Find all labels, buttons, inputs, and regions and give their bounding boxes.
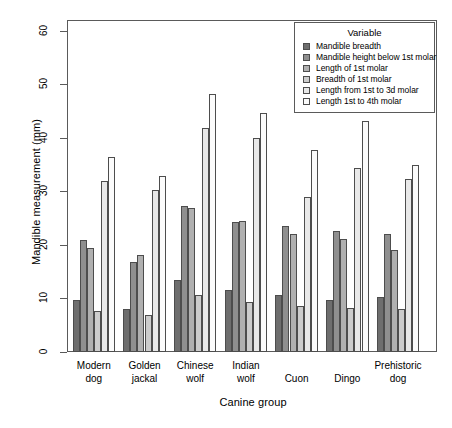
bar <box>188 208 195 352</box>
bar <box>123 309 130 352</box>
legend-entry: Length of 1st molar <box>299 63 430 74</box>
bar <box>209 94 216 352</box>
bar <box>340 239 347 352</box>
bar <box>130 262 137 352</box>
bar <box>326 300 333 352</box>
bar <box>239 221 246 352</box>
legend-swatch-icon <box>303 54 310 61</box>
legend-entry-label: Breadth of 1st molar <box>316 74 392 84</box>
bar <box>232 222 239 352</box>
y-axis-tick <box>60 84 67 85</box>
x-axis-group-label: Prehistoric dog <box>361 360 435 385</box>
bar <box>290 234 297 352</box>
bar <box>181 206 188 352</box>
bar <box>202 128 209 352</box>
legend-entry: Breadth of 1st molar <box>299 74 430 85</box>
bar <box>94 311 101 352</box>
legend-entry-label: Mandible breadth <box>316 41 381 51</box>
y-axis-tick-label: 10 <box>38 285 49 311</box>
legend-entry-label: Length of 1st molar <box>316 63 388 73</box>
legend-swatch-icon <box>303 43 310 50</box>
bar <box>260 113 267 352</box>
y-axis-tick-label: 60 <box>38 17 49 43</box>
y-axis-tick <box>60 138 67 139</box>
bar <box>246 302 253 352</box>
legend-entry-label: Length 1st to 4th molar <box>316 96 402 106</box>
bar <box>73 300 80 352</box>
legend-swatch-icon <box>303 76 310 83</box>
bar <box>137 255 144 352</box>
bar <box>377 297 384 352</box>
bar <box>80 240 87 352</box>
y-axis-tick-label: 20 <box>38 231 49 257</box>
bar <box>405 179 412 352</box>
legend-entry: Length 1st to 4th molar <box>299 96 430 107</box>
bar <box>354 168 361 352</box>
y-axis-tick-label: 40 <box>38 124 49 150</box>
bar <box>225 290 232 352</box>
bar <box>87 248 94 352</box>
y-axis-tick-label: 30 <box>38 178 49 204</box>
legend-entry: Mandible height below 1st molar <box>299 52 430 63</box>
x-axis-title: Canine group <box>68 396 438 408</box>
bar <box>391 250 398 352</box>
legend-swatch-icon <box>303 65 310 72</box>
bar <box>145 315 152 352</box>
bar <box>253 138 260 352</box>
bar <box>398 309 405 352</box>
y-axis-tick <box>60 298 67 299</box>
bar <box>108 157 115 352</box>
y-axis-tick <box>60 245 67 246</box>
bar <box>311 150 318 352</box>
legend-entry: Mandible breadth <box>299 41 430 52</box>
y-axis-tick <box>60 191 67 192</box>
bar <box>304 197 311 352</box>
legend-swatch-icon <box>303 87 310 94</box>
legend-swatch-icon <box>303 98 310 105</box>
bar <box>412 165 419 352</box>
chart-figure: Mandible measurement (mm) 0102030405060 … <box>0 0 452 428</box>
bar <box>152 190 159 352</box>
legend-entry-label: Mandible height below 1st molar <box>316 52 436 62</box>
legend-entry: Length from 1st to 3d molar <box>299 85 430 96</box>
bar <box>362 121 369 352</box>
bar <box>333 231 340 352</box>
y-axis-tick-label: 50 <box>38 71 49 97</box>
y-axis-tick <box>60 352 67 353</box>
y-axis-tick <box>60 31 67 32</box>
bar <box>297 306 304 352</box>
bar <box>159 176 166 352</box>
bar <box>384 234 391 352</box>
legend: Variable Mandible breadthMandible height… <box>294 22 435 113</box>
bar <box>174 280 181 352</box>
legend-entries: Mandible breadthMandible height below 1s… <box>299 41 430 107</box>
bar <box>101 181 108 352</box>
bar <box>195 295 202 352</box>
bar <box>347 308 354 352</box>
bar <box>275 295 282 352</box>
y-axis-tick-label: 0 <box>38 339 49 365</box>
bar <box>282 226 289 352</box>
legend-title: Variable <box>299 27 430 38</box>
legend-entry-label: Length from 1st to 3d molar <box>316 85 419 95</box>
